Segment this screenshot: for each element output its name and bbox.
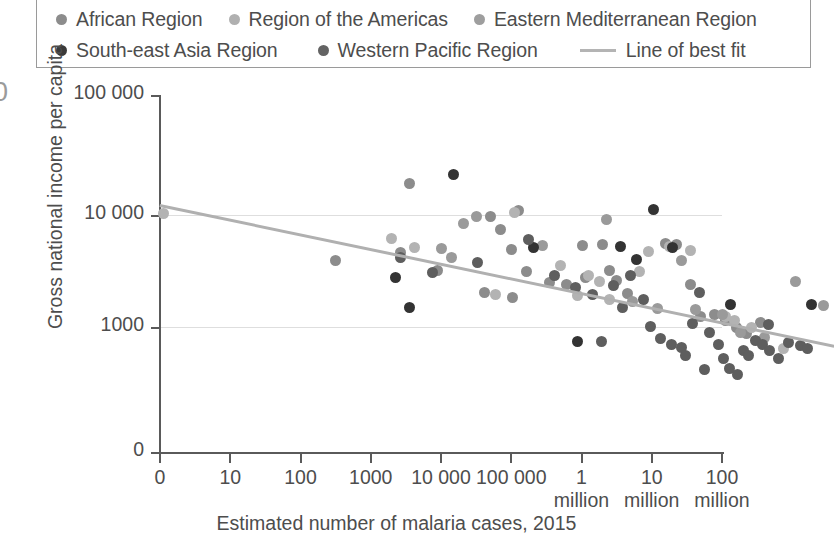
data-point — [680, 350, 691, 361]
data-point — [615, 241, 626, 252]
data-point — [608, 280, 619, 291]
data-point — [479, 287, 490, 298]
data-point — [685, 245, 696, 256]
data-point — [490, 289, 501, 300]
data-point — [773, 353, 784, 364]
data-point — [597, 239, 608, 250]
data-point — [330, 255, 341, 266]
data-point — [704, 327, 715, 338]
y-tick-label: 10 000 — [0, 201, 144, 224]
data-point — [495, 224, 506, 235]
data-point — [158, 208, 169, 219]
data-point — [645, 321, 656, 332]
data-point — [506, 244, 517, 255]
data-point — [507, 292, 518, 303]
data-point — [446, 252, 457, 263]
x-tick-4 — [440, 452, 442, 463]
data-point — [596, 336, 607, 347]
gridline-10000 — [160, 215, 722, 216]
data-point — [717, 309, 728, 320]
x-tick-1 — [229, 452, 231, 463]
data-point — [806, 299, 817, 310]
data-point — [655, 333, 666, 344]
y-axis-line — [159, 95, 161, 453]
data-point — [643, 246, 654, 257]
data-point — [743, 350, 754, 361]
data-point — [583, 270, 594, 281]
x-tick-5 — [510, 452, 512, 463]
data-point — [763, 319, 774, 330]
data-point — [694, 287, 705, 298]
x-tick-8 — [721, 452, 723, 463]
data-point — [521, 266, 532, 277]
data-point — [790, 276, 801, 287]
data-point — [436, 243, 447, 254]
x-tick-2 — [300, 452, 302, 463]
data-point — [625, 270, 636, 281]
data-point — [604, 265, 615, 276]
data-point — [725, 299, 736, 310]
x-tick-label: 100million — [662, 466, 782, 512]
y-tick-label: 100 000 — [0, 81, 144, 104]
data-point — [404, 178, 415, 189]
data-point — [458, 218, 469, 229]
data-point — [555, 260, 566, 271]
data-point — [409, 242, 420, 253]
data-point — [572, 336, 583, 347]
data-point — [549, 270, 560, 281]
x-tick-7 — [651, 452, 653, 463]
data-point — [427, 267, 438, 278]
x-tick-0 — [159, 452, 161, 463]
y-tick-2 — [151, 327, 161, 329]
data-point — [390, 272, 401, 283]
data-point — [713, 339, 724, 350]
x-tick-3 — [370, 452, 372, 463]
y-tick-label: 0 — [0, 438, 144, 461]
data-point — [699, 364, 710, 375]
data-point — [667, 242, 678, 253]
gridline-1000 — [160, 327, 722, 328]
data-point — [386, 233, 397, 244]
data-point — [594, 276, 605, 287]
data-point — [404, 302, 415, 313]
data-point — [818, 300, 829, 311]
data-point — [448, 169, 459, 180]
data-point — [471, 211, 482, 222]
data-point — [648, 204, 659, 215]
data-point — [732, 369, 743, 380]
x-axis-label: Estimated number of malaria cases, 2015 — [0, 512, 793, 535]
data-point — [676, 255, 687, 266]
data-point — [631, 254, 642, 265]
data-point — [509, 207, 520, 218]
y-tick-0 — [151, 95, 161, 97]
y-tick-label: 1000 — [0, 313, 144, 336]
data-point — [472, 257, 483, 268]
data-point — [577, 240, 588, 251]
data-point — [802, 343, 813, 354]
data-point — [601, 214, 612, 225]
x-tick-6 — [581, 452, 583, 463]
data-point — [537, 240, 548, 251]
data-point — [485, 211, 496, 222]
